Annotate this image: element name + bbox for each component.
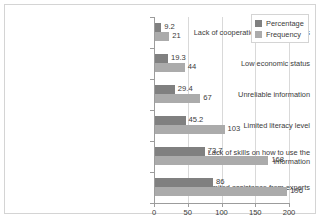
bars-container: 73.7168 xyxy=(155,146,315,168)
bar-value-label: 67 xyxy=(200,93,211,102)
chart-frame: 050100150200 Lack of cooperation among f… xyxy=(4,4,316,214)
bar-percentage xyxy=(155,116,186,125)
bar-value-label: 103 xyxy=(225,124,241,133)
x-tick-100 xyxy=(222,203,223,207)
bar-value-label: 9.2 xyxy=(161,22,175,31)
bar-frequency xyxy=(155,63,185,72)
bar-value-label: 29.4 xyxy=(175,84,193,93)
bar-frequency xyxy=(155,156,268,165)
bar-percentage xyxy=(155,147,205,156)
x-tick-label-100: 100 xyxy=(215,208,228,217)
bar-group: Limited literacy level45.2103 xyxy=(5,115,315,137)
bar-value-label: 21 xyxy=(169,31,180,40)
bar-percentage xyxy=(155,178,213,187)
bar-value-label: 196 xyxy=(287,186,303,195)
bar-value-label: 44 xyxy=(185,62,196,71)
x-tick-150 xyxy=(255,203,256,207)
x-tick-200 xyxy=(289,203,290,207)
bar-group: Unreliable information29.467 xyxy=(5,84,315,106)
y-tick-5 xyxy=(150,172,154,173)
legend-item-percentage[interactable]: Percentage xyxy=(255,18,304,28)
bar-value-label: 73.7 xyxy=(205,146,223,155)
bar-percentage xyxy=(155,54,168,63)
bar-value-label: 19.3 xyxy=(168,53,186,62)
x-tick-label-150: 150 xyxy=(249,208,262,217)
bars-container: 19.344 xyxy=(155,53,315,75)
gridline-50 xyxy=(188,17,189,203)
bar-percentage xyxy=(155,85,175,94)
bar-value-label: 168 xyxy=(268,155,284,164)
bar-group: Low economic status19.344 xyxy=(5,53,315,75)
y-tick-4 xyxy=(150,141,154,142)
chart-legend: PercentageFrequency xyxy=(251,14,309,43)
gridline-100 xyxy=(222,17,223,203)
legend-item-frequency[interactable]: Frequency xyxy=(255,29,304,39)
bar-value-label: 86 xyxy=(213,177,224,186)
bar-group: Limited assistance from experts86196 xyxy=(5,177,315,199)
bar-frequency xyxy=(155,94,200,103)
x-tick-label-0: 0 xyxy=(152,208,156,217)
gridline-200 xyxy=(289,17,290,203)
bars-container: 86196 xyxy=(155,177,315,199)
legend-label: Percentage xyxy=(266,19,304,28)
y-tick-3 xyxy=(150,110,154,111)
x-tick-label-50: 50 xyxy=(184,208,192,217)
bars-container: 29.467 xyxy=(155,84,315,106)
y-tick-0 xyxy=(150,17,154,18)
y-tick-2 xyxy=(150,79,154,80)
gridline-150 xyxy=(255,17,256,203)
bar-value-label: 45.2 xyxy=(186,115,204,124)
legend-swatch-frequency xyxy=(255,31,262,38)
bar-frequency xyxy=(155,125,225,134)
x-tick-50 xyxy=(188,203,189,207)
legend-swatch-percentage xyxy=(255,20,262,27)
bar-group: Lack of skills on how to use the informa… xyxy=(5,146,315,168)
y-tick-1 xyxy=(150,48,154,49)
bars-container: 45.2103 xyxy=(155,115,315,137)
x-tick-label-200: 200 xyxy=(283,208,296,217)
legend-label: Frequency xyxy=(266,30,301,39)
bar-frequency xyxy=(155,187,287,196)
bar-frequency xyxy=(155,32,169,41)
y-axis-line xyxy=(154,17,155,203)
x-tick-0 xyxy=(154,203,155,207)
